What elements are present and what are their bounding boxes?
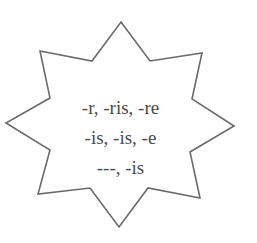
ending-line-3: ---, -is — [0, 153, 241, 183]
ending-line-1: -r, -ris, -re — [0, 93, 241, 123]
ending-text-block: -r, -ris, -re -is, -is, -e ---, -is — [0, 93, 241, 183]
ending-line-2: -is, -is, -e — [0, 123, 241, 153]
